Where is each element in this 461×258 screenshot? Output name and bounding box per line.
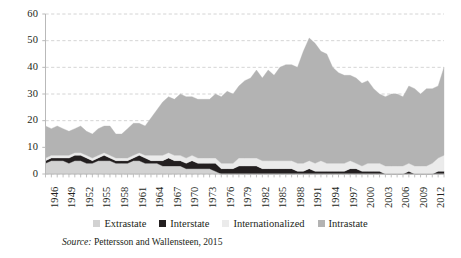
x-tick-label: 2012: [436, 187, 447, 208]
y-tick-label: 20: [12, 115, 38, 125]
x-tick-label: 1991: [313, 187, 324, 208]
y-tick-label: 60: [12, 9, 38, 19]
x-tick-label: 1946: [50, 187, 61, 208]
area-series-intrastate: [46, 38, 445, 166]
source-label: Source:: [62, 236, 91, 247]
x-tick-label: 1979: [243, 187, 254, 208]
x-tick-label: 1967: [173, 187, 184, 208]
legend-item-interstate[interactable]: Interstate: [159, 218, 209, 229]
y-axis: 0102030405060: [6, 0, 38, 180]
x-tick-label: 1982: [261, 187, 272, 208]
x-tick-label: 1958: [120, 187, 131, 208]
legend-swatch-icon: [93, 220, 100, 227]
x-tick-label: 1976: [226, 187, 237, 208]
y-tick-label: 40: [12, 62, 38, 72]
x-tick-label: 2003: [384, 187, 395, 208]
legend-swatch-icon: [318, 220, 325, 227]
x-tick-label: 2009: [419, 187, 430, 208]
x-tick-label: 1964: [155, 187, 166, 208]
legend-swatch-icon: [159, 220, 166, 227]
x-tick-label: 2000: [366, 187, 377, 208]
x-tick-label: 1994: [331, 187, 342, 208]
x-tick-label: 1985: [278, 187, 289, 208]
x-tick-label: 1949: [67, 187, 78, 208]
legend-label: Interstate: [170, 218, 209, 229]
x-axis: 1946194919521955195819611964196719701973…: [0, 176, 461, 214]
x-tick-label: 1988: [296, 187, 307, 208]
chart-figure: 0102030405060 19461949195219551958196119…: [0, 0, 461, 258]
legend-item-extrastate[interactable]: Extrastate: [93, 218, 146, 229]
y-tick-label: 10: [12, 142, 38, 152]
x-tick-label: 1952: [85, 187, 96, 208]
legend-item-intrastate[interactable]: Intrastate: [318, 218, 368, 229]
x-tick-label: 1955: [102, 187, 113, 208]
legend-label: Extrastate: [104, 218, 146, 229]
source-value: Pettersson and Wallensteen, 2015: [91, 236, 222, 247]
x-tick-label: 2006: [401, 187, 412, 208]
source-note: Source: Pettersson and Wallensteen, 2015: [62, 236, 222, 247]
x-tick-label: 1961: [138, 187, 149, 208]
x-tick-label: 1997: [349, 187, 360, 208]
x-tick-label: 1970: [190, 187, 201, 208]
legend-item-internationalized[interactable]: Internationalized: [222, 218, 304, 229]
y-tick-label: 30: [12, 89, 38, 99]
legend-label: Intrastate: [329, 218, 368, 229]
chart-legend: ExtrastateInterstateInternationalizedInt…: [0, 215, 461, 231]
legend-swatch-icon: [222, 220, 229, 227]
legend-label: Internationalized: [233, 218, 304, 229]
x-tick-label: 1973: [208, 187, 219, 208]
y-tick-label: 50: [12, 35, 38, 45]
